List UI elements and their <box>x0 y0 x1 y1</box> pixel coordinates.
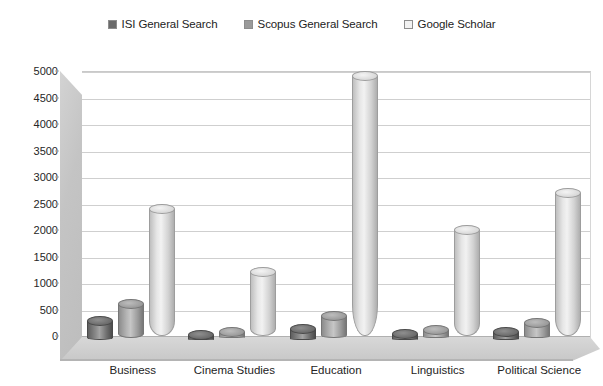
bar-cap-ellipse <box>392 329 418 339</box>
legend-swatch-icon <box>108 20 117 29</box>
bar-cap-ellipse <box>524 318 550 328</box>
bar-linguistics-scopus-general-search[interactable] <box>423 330 449 338</box>
bar-cap-ellipse <box>219 327 245 337</box>
x-axis: BusinessCinema StudiesEducationLinguisti… <box>0 364 603 386</box>
bar-body <box>250 272 276 336</box>
bar-cap-ellipse <box>321 311 347 321</box>
chart-legend: ISI General SearchScopus General SearchG… <box>0 18 603 30</box>
bar-cap-ellipse <box>555 188 581 198</box>
bar-political-science-google-scholar[interactable] <box>555 193 581 336</box>
chart-bars <box>0 46 603 386</box>
bar-linguistics-isi-general-search[interactable] <box>392 334 418 340</box>
chart-plot-area: 0500100015002000250030003500400045005000… <box>0 46 603 386</box>
bar-education-scopus-general-search[interactable] <box>321 316 347 338</box>
legend-entry[interactable]: Scopus General Search <box>244 18 378 30</box>
bar-body <box>454 230 480 336</box>
x-axis-tick-label: Education <box>310 364 361 376</box>
bar-cap-ellipse <box>118 299 144 309</box>
bar-business-isi-general-search[interactable] <box>87 321 113 340</box>
bar-body <box>555 193 581 336</box>
bar-linguistics-google-scholar[interactable] <box>454 230 480 336</box>
bar-cap-ellipse <box>454 225 480 235</box>
bar-body <box>352 76 378 336</box>
bar-business-google-scholar[interactable] <box>149 209 175 336</box>
x-axis-tick-label: Linguistics <box>411 364 465 376</box>
bar-cap-ellipse <box>423 325 449 335</box>
bar-business-scopus-general-search[interactable] <box>118 304 144 338</box>
bar-cinema-studies-isi-general-search[interactable] <box>188 335 214 340</box>
legend-swatch-icon <box>404 20 413 29</box>
bar-body <box>149 209 175 336</box>
bar-education-google-scholar[interactable] <box>352 76 378 336</box>
x-axis-tick-label: Business <box>109 364 156 376</box>
x-axis-tick-label: Political Science <box>497 364 581 376</box>
legend-label: Scopus General Search <box>258 18 378 30</box>
legend-label: Google Scholar <box>418 18 496 30</box>
bar-cap-ellipse <box>149 204 175 214</box>
bar-cinema-studies-scopus-general-search[interactable] <box>219 332 245 338</box>
legend-entry[interactable]: ISI General Search <box>108 18 218 30</box>
legend-label: ISI General Search <box>122 18 218 30</box>
x-axis-tick-label: Cinema Studies <box>194 364 275 376</box>
legend-entry[interactable]: Google Scholar <box>404 18 496 30</box>
bar-political-science-isi-general-search[interactable] <box>493 332 519 340</box>
legend-swatch-icon <box>244 20 253 29</box>
bar-cinema-studies-google-scholar[interactable] <box>250 272 276 336</box>
bar-education-isi-general-search[interactable] <box>290 329 316 340</box>
bar-body <box>118 304 144 338</box>
bar-political-science-scopus-general-search[interactable] <box>524 323 550 338</box>
